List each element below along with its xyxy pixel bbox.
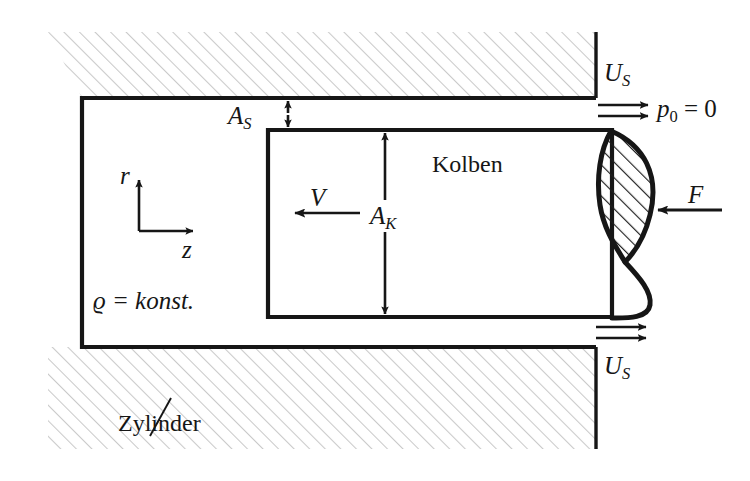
label-cylinder: Zylinder <box>118 411 201 435</box>
piston-head-scurve <box>612 262 650 318</box>
label-ambient-pressure: p0 = 0 <box>657 96 717 125</box>
label-piston: Kolben <box>432 152 503 176</box>
diagram-canvas <box>0 0 750 481</box>
label-piston-area: AK <box>370 203 396 232</box>
flow-arrows-top <box>598 105 648 116</box>
flow-arrows-bottom <box>596 327 646 338</box>
label-force: F <box>688 182 703 207</box>
label-axis-r: r <box>120 163 130 188</box>
label-axis-z: z <box>182 237 192 262</box>
cylinder-wall-upper <box>48 32 596 98</box>
label-gap-velocity-top: US <box>604 60 630 89</box>
label-piston-velocity: V <box>310 185 325 210</box>
label-gap-velocity-bottom: US <box>604 353 630 382</box>
label-density: ϱ = konst. <box>93 288 194 313</box>
piston-cylinder-diagram: US US p0 = 0 F V AS AK Kolben Zylinder ϱ… <box>0 0 750 481</box>
label-gap-area: AS <box>228 103 252 132</box>
coordinate-axes <box>139 180 193 231</box>
